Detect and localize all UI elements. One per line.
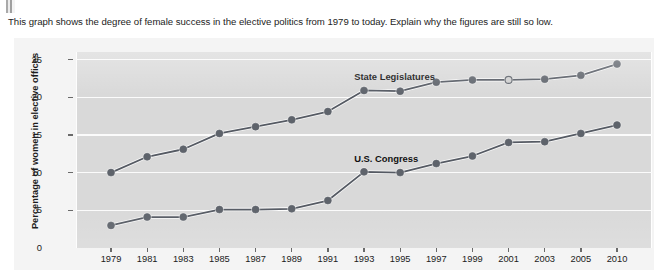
x-tick-label: 1983 xyxy=(166,254,200,264)
data-point xyxy=(216,130,223,137)
x-tick-mark xyxy=(580,248,581,252)
data-point xyxy=(324,108,331,115)
x-tick-label: 2010 xyxy=(600,254,634,264)
data-point xyxy=(505,76,512,83)
y-tick-mark xyxy=(68,210,73,211)
x-tick-label: 2001 xyxy=(492,254,526,264)
x-tick-mark xyxy=(616,248,617,252)
data-point xyxy=(541,138,548,145)
y-tick-label: 0 xyxy=(20,242,42,253)
data-point xyxy=(614,122,621,129)
x-tick-mark xyxy=(183,248,184,252)
y-tick-label: 5 xyxy=(20,204,42,215)
data-point xyxy=(108,169,115,176)
data-point xyxy=(541,76,548,83)
data-point xyxy=(469,76,476,83)
x-tick-label: 2005 xyxy=(564,254,598,264)
data-point xyxy=(505,139,512,146)
data-point xyxy=(469,153,476,160)
y-tick-label: 25 xyxy=(20,54,42,65)
x-tick-mark xyxy=(400,248,401,252)
y-tick-label: 20 xyxy=(20,91,42,102)
x-tick-mark xyxy=(219,248,220,252)
data-point xyxy=(288,116,295,123)
y-tick-mark xyxy=(68,134,73,135)
chart-figure: Percentage of women in elective offices … xyxy=(0,38,666,270)
data-point xyxy=(108,222,115,229)
y-tick-label: 10 xyxy=(20,167,42,178)
state-legislatures-label: State Legislatures xyxy=(354,71,435,82)
prompt-text: This graph shows the degree of female su… xyxy=(8,16,658,28)
x-tick-label: 1999 xyxy=(455,254,489,264)
x-tick-mark xyxy=(255,248,256,252)
data-point xyxy=(180,146,187,153)
data-point xyxy=(577,72,584,79)
x-tick-mark xyxy=(327,248,328,252)
x-tick-label: 1997 xyxy=(419,254,453,264)
data-point xyxy=(361,87,368,94)
data-point xyxy=(252,123,259,130)
x-tick-label: 1981 xyxy=(130,254,164,264)
data-point xyxy=(324,197,331,204)
plot-area: State LegislaturesU.S. Congress xyxy=(76,52,652,248)
us-congress-label: U.S. Congress xyxy=(354,153,418,164)
page-edge-artifact xyxy=(6,0,15,13)
x-tick-mark xyxy=(363,248,364,252)
chart-panel: Percentage of women in elective offices … xyxy=(14,38,654,270)
x-tick-mark xyxy=(110,248,111,252)
data-point xyxy=(288,205,295,212)
data-point xyxy=(397,88,404,95)
x-tick-label: 1979 xyxy=(94,254,128,264)
data-point xyxy=(577,130,584,137)
y-tick-mark xyxy=(68,59,73,60)
data-point xyxy=(614,61,621,68)
data-point xyxy=(433,160,440,167)
x-tick-label: 2003 xyxy=(528,254,562,264)
x-tick-label: 1991 xyxy=(311,254,345,264)
x-tick-mark xyxy=(472,248,473,252)
x-tick-mark xyxy=(147,248,148,252)
data-point xyxy=(216,206,223,213)
data-point xyxy=(144,214,151,221)
data-point xyxy=(144,153,151,160)
x-tick-mark xyxy=(544,248,545,252)
x-tick-label: 1995 xyxy=(383,254,417,264)
x-tick-label: 1985 xyxy=(202,254,236,264)
data-point xyxy=(180,214,187,221)
y-tick-mark xyxy=(68,97,73,98)
data-point xyxy=(252,206,259,213)
data-point xyxy=(397,169,404,176)
x-tick-mark xyxy=(436,248,437,252)
x-tick-mark xyxy=(508,248,509,252)
x-tick-label: 1987 xyxy=(239,254,273,264)
y-tick-label: 15 xyxy=(20,129,42,140)
data-point xyxy=(361,168,368,175)
x-tick-mark xyxy=(291,248,292,252)
x-tick-label: 1989 xyxy=(275,254,309,264)
x-tick-label: 1993 xyxy=(347,254,381,264)
y-tick-mark xyxy=(68,172,73,173)
